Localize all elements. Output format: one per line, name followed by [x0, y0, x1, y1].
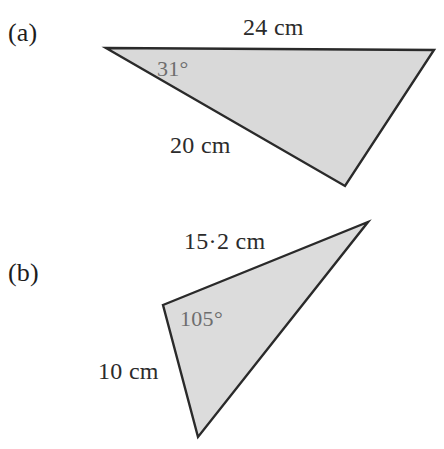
part-label-b: (b)	[8, 258, 39, 288]
part-label-a: (a)	[8, 18, 37, 48]
triangle-a-bottom-side-label: 20 cm	[170, 132, 231, 159]
triangle-a-top-side-label: 24 cm	[243, 14, 304, 41]
triangle-b-top-side-label: 15·2 cm	[184, 228, 265, 255]
figure-page: (a) 24 cm 31° 20 cm (b) 15·2 cm 105° 10 …	[0, 0, 444, 449]
triangle-a-shape	[106, 48, 434, 186]
triangle-a-angle-label: 31°	[157, 56, 189, 82]
triangles-diagram	[0, 0, 444, 449]
triangle-b-left-side-label: 10 cm	[98, 358, 159, 385]
triangle-b-angle-label: 105°	[180, 306, 223, 332]
